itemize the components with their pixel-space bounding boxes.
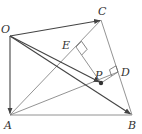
segment-AC	[10, 20, 101, 115]
label-A: A	[3, 119, 12, 132]
vector-OB	[10, 36, 131, 114]
vector-OC	[10, 21, 100, 37]
vectors	[10, 21, 131, 115]
label-P: P	[94, 69, 103, 82]
vector-OP	[10, 36, 100, 82]
label-C: C	[98, 5, 107, 18]
label-O: O	[1, 23, 10, 36]
label-E: E	[61, 39, 70, 52]
geometry-diagram: O C A B P D E	[0, 0, 142, 134]
label-B: B	[127, 119, 136, 132]
label-D: D	[120, 66, 130, 79]
right-angle-E	[76, 41, 87, 55]
